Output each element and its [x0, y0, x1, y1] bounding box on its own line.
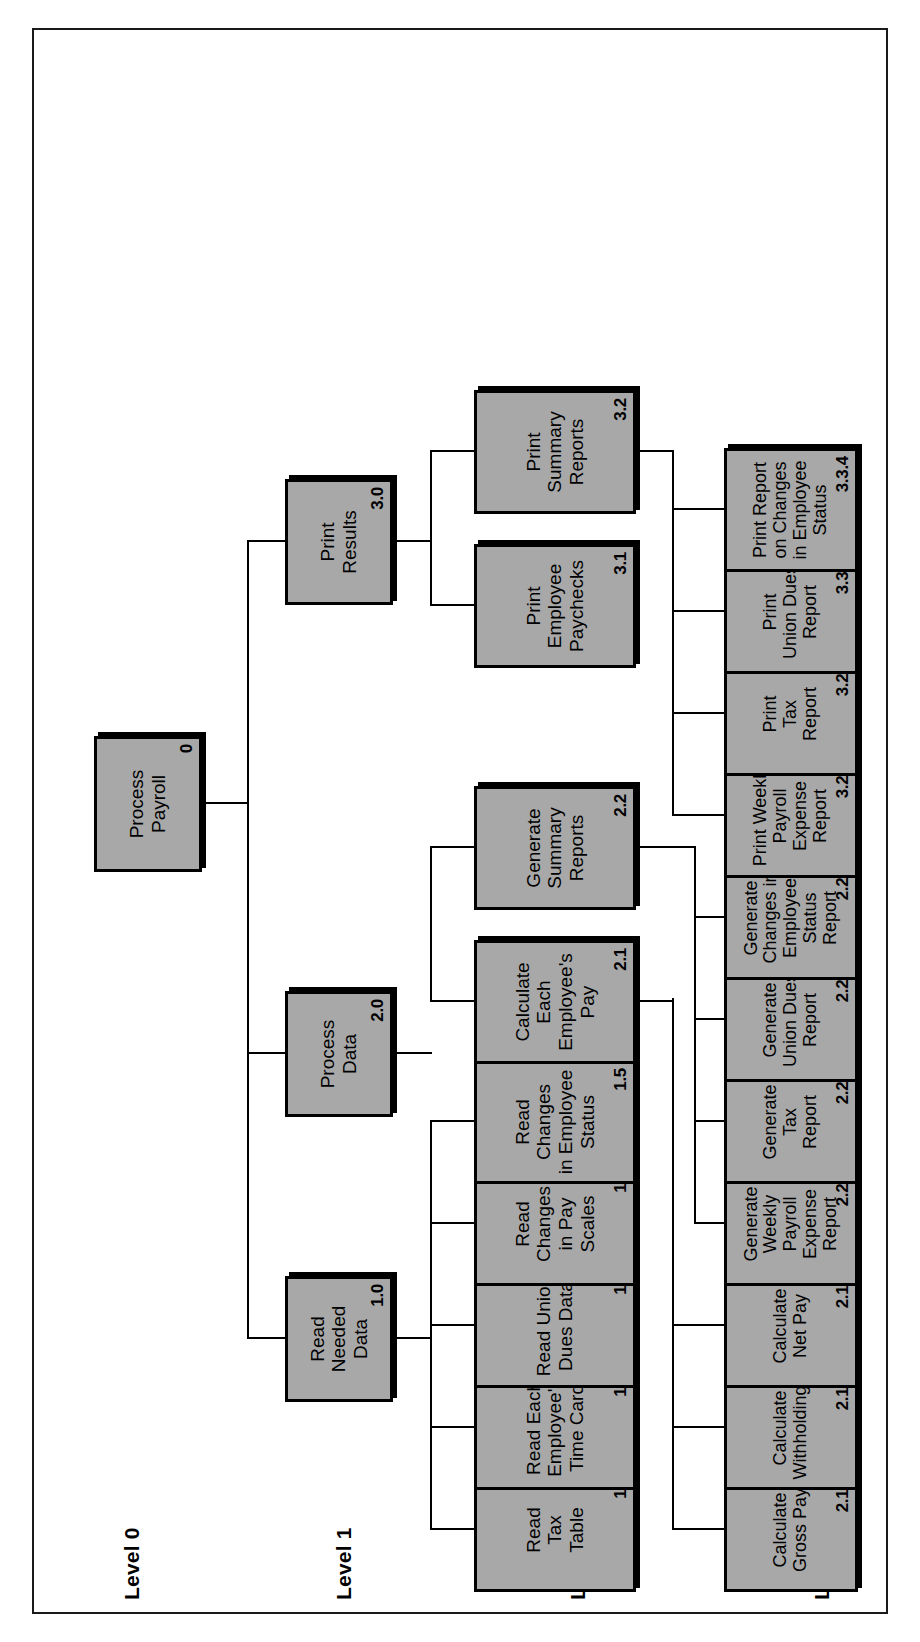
node-number: 3.0 [368, 487, 388, 510]
node-print-employee-paychecks[interactable]: Print Employee Paychecks 3.1 [474, 544, 636, 668]
connector-drop-1-2 [430, 1426, 474, 1428]
structure-chart-canvas: Level 0 Level 1 Level 2 Level 3 [32, 28, 888, 1614]
connector-drop-print [247, 540, 285, 542]
connector-drop-2-2-2 [694, 1120, 724, 1122]
connector-22-bus [694, 846, 696, 1224]
node-number: 3.1 [611, 552, 631, 575]
node-title: Generate Summary Reports [523, 803, 588, 892]
node-number: 3.2 [611, 398, 631, 421]
node-title: Print Results [317, 506, 360, 577]
node-title: Read Tax Table [523, 1503, 588, 1556]
level-label-1: Level 1 [332, 1527, 356, 1600]
node-generate-summary-reports[interactable]: Generate Summary Reports 2.2 [474, 786, 636, 910]
connector-drop-1-1 [430, 1528, 474, 1530]
node-calculate-each-employee-pay[interactable]: Calculate Each Employee's Pay 2.1 [474, 940, 636, 1064]
node-read-changes-employee-status[interactable]: Read Changes in Employee Status 1.5 [474, 1060, 636, 1184]
connector-32-stem [636, 450, 674, 452]
node-title: Read Each Employee's Time Card [523, 1375, 588, 1481]
node-title: Print Weekly Payroll Expense Report [751, 762, 830, 871]
connector-read-stem [392, 1337, 432, 1339]
connector-root-stem [202, 802, 248, 804]
node-title: Calculate Withholdings [771, 1372, 811, 1483]
node-title: Calculate Net Pay [771, 1284, 811, 1367]
node-number: 0 [177, 744, 197, 753]
rotated-canvas-wrapper: Level 0 Level 1 Level 2 Level 3 [32, 28, 888, 1614]
connector-process-stem [392, 1052, 432, 1054]
connector-drop-2-2-1 [694, 1222, 724, 1224]
connector-drop-1-4 [430, 1222, 474, 1224]
connector-level1-bus [247, 541, 249, 1339]
node-title: Generate Changes in Employee Status Repo… [742, 868, 841, 967]
connector-drop-2-1 [430, 1000, 474, 1002]
connector-drop-2-1-1 [672, 1528, 724, 1530]
connector-drop-2-1-3 [672, 1324, 724, 1326]
connector-drop-3-3-3 [672, 610, 724, 612]
node-title: Print Report on Changes in Employee Stat… [751, 456, 830, 563]
connector-drop-read [247, 1337, 285, 1339]
node-title: Process Payroll [126, 766, 169, 843]
node-title: Print Summary Reports [523, 407, 588, 496]
node-title: Read Changes in Employee Status [512, 1066, 599, 1179]
node-title: Print Union Dues Report [761, 561, 820, 663]
node-title: Calculate Each Employee's Pay [512, 949, 599, 1055]
connector-drop-2-2-4 [694, 916, 724, 918]
node-number: 2.1 [611, 948, 631, 971]
node-title: Print Employee Paychecks [523, 556, 588, 656]
node-number: 2.2 [611, 794, 631, 817]
connector-drop-3-1 [430, 604, 474, 606]
node-title: Generate Tax Report [761, 1080, 820, 1163]
node-number: 1.5 [611, 1068, 631, 1091]
level-label-0: Level 0 [120, 1527, 144, 1600]
node-title: Calculate Gross Pay [771, 1484, 811, 1576]
connector-drop-2-2-3 [694, 1018, 724, 1020]
node-read-needed-data[interactable]: Read Needed Data 1.0 [285, 1276, 393, 1402]
node-title: Generate Weekly Payroll Expense Report [742, 1182, 841, 1265]
node-process-payroll[interactable]: Process Payroll 0 [94, 736, 202, 872]
node-print-summary-reports[interactable]: Print Summary Reports 3.2 [474, 390, 636, 514]
node-title: Generate Union Dues Report [761, 969, 820, 1071]
node-print-results[interactable]: Print Results 3.0 [285, 479, 393, 605]
connector-22-stem [636, 846, 674, 848]
node-number: 1.0 [368, 1284, 388, 1307]
node-title: Read Changes in Pay Scales [512, 1182, 599, 1266]
node-number: 2.0 [368, 999, 388, 1022]
connector-drop-2-1-2 [672, 1426, 724, 1428]
figure-page: Level 0 Level 1 Level 2 Level 3 [0, 0, 920, 1642]
connector-drop-3-2-1 [672, 814, 724, 816]
node-title: Process Data [317, 1016, 360, 1093]
connector-22-bus-link [672, 846, 696, 848]
node-title: Read Needed Data [307, 1302, 372, 1377]
connector-print-bus [430, 452, 432, 606]
connector-32-bus [672, 450, 674, 816]
connector-drop-3-3-4 [672, 508, 724, 510]
connector-drop-2-2 [430, 846, 474, 848]
connector-drop-1-3 [430, 1324, 474, 1326]
node-print-report-changes-employee-status[interactable]: Print Report on Changes in Employee Stat… [724, 448, 858, 572]
connector-drop-3-2 [430, 450, 474, 452]
connector-drop-process [247, 1052, 285, 1054]
connector-drop-3-2-2 [672, 712, 724, 714]
node-title: Read Union Dues Data [533, 1272, 576, 1380]
node-title: Print Tax Report [761, 683, 820, 745]
node-process-data[interactable]: Process Data 2.0 [285, 991, 393, 1117]
connector-process-bus [430, 848, 432, 1002]
connector-21-bus [672, 998, 674, 1530]
node-number: 3.3.4 [833, 456, 853, 492]
connector-drop-1-5 [430, 1120, 474, 1122]
connector-21-stem [636, 1000, 674, 1002]
connector-print-stem [392, 540, 432, 542]
